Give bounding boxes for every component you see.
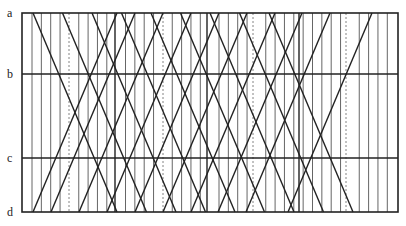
ascending-line — [51, 13, 135, 212]
descending-diagonal-lines — [33, 13, 353, 212]
vertical-grid-lines — [32, 13, 387, 212]
ascending-line — [163, 13, 247, 212]
line-diagram — [0, 0, 406, 226]
ascending-line — [218, 13, 302, 212]
row-label-a: a — [7, 7, 12, 19]
ascending-line — [107, 13, 191, 212]
ascending-line — [79, 13, 163, 212]
row-label-d: d — [7, 206, 13, 218]
ascending-line — [246, 13, 330, 212]
row-label-b: b — [7, 68, 13, 80]
ascending-line — [191, 13, 275, 212]
row-label-c: c — [7, 152, 12, 164]
ascending-diagonal-lines — [33, 13, 372, 212]
